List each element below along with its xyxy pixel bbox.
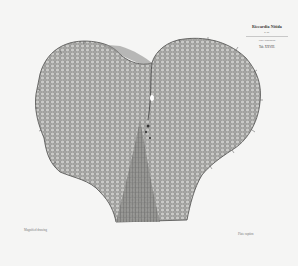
plate-note: Plate illustration xyxy=(242,39,292,42)
plate-reference: Tab. XXVIII. xyxy=(242,45,292,49)
illustration-sheet: Riccardia Nitida n. sp. Plate illustrati… xyxy=(0,0,298,266)
plate-title: Riccardia Nitida xyxy=(242,24,292,29)
divider xyxy=(246,36,288,37)
title-block: Riccardia Nitida n. sp. Plate illustrati… xyxy=(242,24,292,49)
caption-right: Plate caption xyxy=(238,232,254,236)
caption-left: Magnified drawing xyxy=(24,228,47,232)
plate-subtitle: n. sp. xyxy=(242,31,292,34)
